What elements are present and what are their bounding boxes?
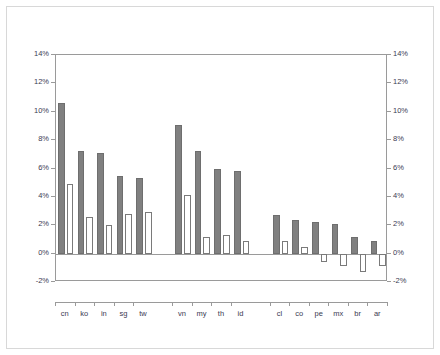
y-tick-label-right-5: 4% (393, 192, 433, 200)
bar-cn-mf (58, 103, 65, 253)
bar-cl-prod-non-mf (282, 241, 289, 254)
bar-tw-prod-non-mf (145, 212, 152, 253)
y-tick-mark-right-6 (387, 224, 391, 225)
bar-ar-mf (371, 241, 378, 254)
y-tick-label-left-5: 4% (9, 192, 49, 200)
y-tick-label-right-8: -2% (393, 277, 433, 285)
x-tick-mark-9 (270, 302, 271, 306)
bar-th-prod-non-mf (223, 235, 230, 253)
x-tick-mark-2 (94, 302, 95, 306)
bar-mx-mf (332, 224, 339, 254)
y-tick-label-right-6: 2% (393, 220, 433, 228)
x-tick-label-br: br (354, 310, 361, 318)
x-tick-mark-7 (211, 302, 212, 306)
y-tick-label-left-8: -2% (9, 277, 49, 285)
y-tick-label-right-0: 14% (393, 50, 433, 58)
y-tick-mark-right-8 (387, 281, 391, 282)
y-tick-label-right-2: 10% (393, 107, 433, 115)
y-tick-mark-right-4 (387, 168, 391, 169)
x-tick-mark-5 (172, 302, 173, 306)
x-tick-mark-4 (133, 302, 134, 306)
x-axis (55, 302, 387, 303)
x-tick-mark-0 (55, 302, 56, 306)
y-tick-label-left-2: 10% (9, 107, 49, 115)
x-tick-mark-1 (75, 302, 76, 306)
y-tick-mark-left-6 (51, 224, 55, 225)
bar-in-mf (97, 153, 104, 254)
bar-br-mf (351, 237, 358, 254)
x-tick-label-in: in (101, 310, 107, 318)
y-tick-mark-left-1 (51, 82, 55, 83)
x-tick-mark-3 (114, 302, 115, 306)
x-tick-label-ko: ko (80, 310, 88, 318)
y-tick-mark-right-5 (387, 196, 391, 197)
y-tick-label-left-7: 0% (9, 249, 49, 257)
y-tick-mark-left-3 (51, 139, 55, 140)
x-tick-label-sg: sg (119, 310, 127, 318)
bar-tw-mf (136, 178, 143, 253)
x-tick-label-vn: vn (178, 310, 186, 318)
x-tick-label-pe: pe (314, 310, 322, 318)
x-tick-label-my: my (196, 310, 206, 318)
y-tick-label-left-1: 12% (9, 78, 49, 86)
bar-id-prod-non-mf (243, 241, 250, 254)
y-tick-mark-right-3 (387, 139, 391, 140)
y-tick-mark-right-1 (387, 82, 391, 83)
plot-area (55, 54, 387, 281)
bar-ko-mf (78, 151, 85, 253)
x-tick-label-cn: cn (61, 310, 69, 318)
x-tick-mark-8 (231, 302, 232, 306)
x-tick-mark-12 (328, 302, 329, 306)
y-tick-label-left-4: 6% (9, 164, 49, 172)
bar-mx-prod-non-mf (340, 254, 347, 267)
y-tick-mark-left-0 (51, 54, 55, 55)
zero-baseline (56, 254, 386, 255)
bar-co-mf (292, 220, 299, 254)
bar-vn-mf (175, 125, 182, 254)
x-tick-label-ar: ar (374, 310, 381, 318)
bar-my-prod-non-mf (203, 237, 210, 254)
y-tick-mark-left-7 (51, 253, 55, 254)
y-tick-mark-right-7 (387, 253, 391, 254)
x-tick-mark-11 (309, 302, 310, 306)
bar-pe-mf (312, 222, 319, 253)
x-tick-mark-14 (367, 302, 368, 306)
bar-sg-mf (117, 176, 124, 254)
y-tick-mark-left-8 (51, 281, 55, 282)
x-tick-mark-6 (192, 302, 193, 306)
x-tick-label-mx: mx (333, 310, 343, 318)
x-tick-label-tw: tw (139, 310, 147, 318)
y-tick-label-left-0: 14% (9, 50, 49, 58)
x-tick-label-id: id (238, 310, 244, 318)
x-tick-label-cl: cl (277, 310, 282, 318)
bar-vn-prod-non-mf (184, 195, 191, 253)
y-tick-mark-right-0 (387, 54, 391, 55)
x-tick-label-co: co (295, 310, 303, 318)
y-tick-mark-left-2 (51, 111, 55, 112)
bar-th-mf (214, 169, 221, 254)
y-tick-label-right-4: 6% (393, 164, 433, 172)
y-tick-label-right-1: 12% (393, 78, 433, 86)
bar-pe-prod-non-mf (321, 254, 328, 263)
x-tick-mark-13 (348, 302, 349, 306)
y-tick-mark-left-5 (51, 196, 55, 197)
bar-cl-mf (273, 215, 280, 253)
bar-ko-prod-non-mf (86, 217, 93, 254)
bar-cn-prod-non-mf (67, 184, 74, 254)
x-tick-mark-10 (289, 302, 290, 306)
bar-br-prod-non-mf (360, 254, 367, 272)
y-tick-mark-left-4 (51, 168, 55, 169)
y-tick-label-left-3: 8% (9, 135, 49, 143)
x-tick-mark-end (387, 302, 388, 306)
bars-container (56, 55, 386, 280)
bar-id-mf (234, 171, 241, 253)
bar-in-prod-non-mf (106, 225, 113, 253)
x-tick-label-th: th (218, 310, 224, 318)
bar-my-mf (195, 151, 202, 253)
y-tick-mark-right-2 (387, 111, 391, 112)
y-tick-label-left-6: 2% (9, 220, 49, 228)
bar-co-prod-non-mf (301, 247, 308, 254)
chart-figure: mf prod non-mf cnkoinsgtwvnmythidclcopem… (6, 6, 434, 349)
y-tick-label-right-3: 8% (393, 135, 433, 143)
bar-ar-prod-non-mf (379, 254, 386, 267)
